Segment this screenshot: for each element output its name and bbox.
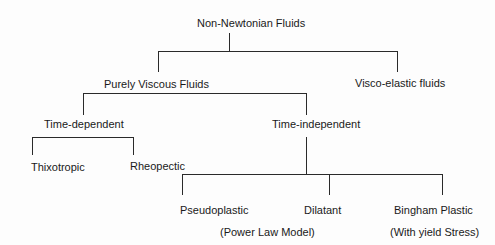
connector-to-visco-elastic [397, 51, 398, 72]
node-purely-viscous-fluids: Purely Viscous Fluids [104, 78, 209, 90]
fluid-classification-diagram: Non-Newtonian Fluids Purely Viscous Flui… [0, 0, 495, 245]
connector-to-time-independent [306, 93, 307, 115]
node-non-newtonian-fluids: Non-Newtonian Fluids [197, 17, 305, 29]
connector-to-bingham [442, 174, 443, 195]
connector-time-independent-stem [306, 137, 307, 174]
node-dilatant: Dilatant [304, 204, 341, 216]
node-thixotropic: Thixotropic [31, 161, 85, 173]
connector-to-thixotropic [32, 137, 33, 155]
connector-to-purely-viscous [158, 51, 159, 72]
node-time-dependent: Time-dependent [44, 118, 124, 130]
node-pseudoplastic: Pseudoplastic [180, 204, 249, 216]
connector-to-dilatant [329, 174, 330, 195]
node-visco-elastic-fluids: Visco-elastic fluids [355, 77, 445, 89]
node-rheopectic: Rheopectic [130, 160, 185, 172]
connector-root-stem [229, 33, 230, 51]
connector-to-rheopectic [133, 137, 134, 155]
connector-time-dependent-branch [32, 137, 134, 138]
note-with-yield-stress: (With yield Stress) [390, 226, 479, 238]
connector-time-independent-branch [182, 174, 443, 175]
connector-to-time-dependent [83, 93, 84, 115]
node-bingham-plastic: Bingham Plastic [394, 204, 473, 216]
node-time-independent: Time-independent [272, 118, 360, 130]
connector-purely-viscous-branch [83, 93, 307, 94]
note-power-law-model: (Power Law Model) [220, 226, 315, 238]
connector-root-branch [158, 51, 398, 52]
connector-to-pseudoplastic [182, 174, 183, 195]
